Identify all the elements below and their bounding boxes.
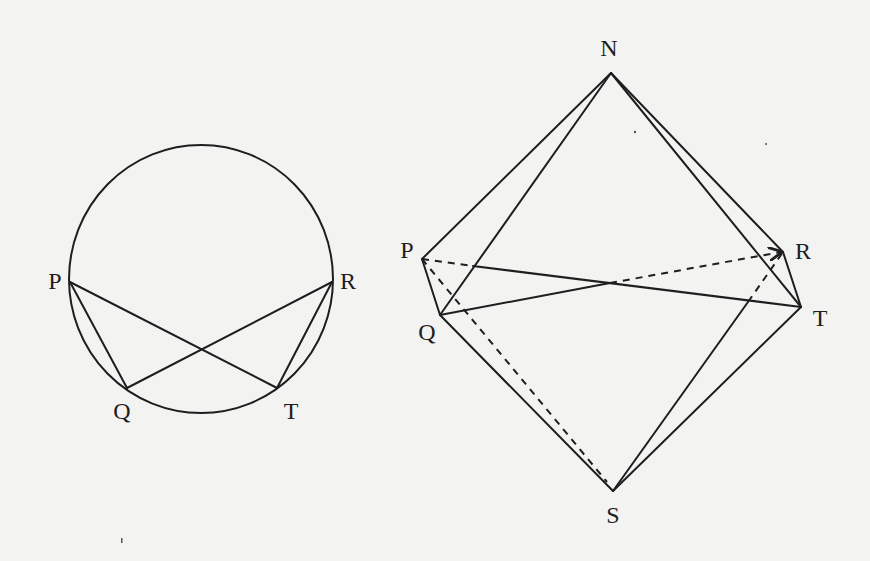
circle-label-r: R bbox=[340, 268, 356, 294]
solid-figure: N P Q R T S bbox=[400, 35, 827, 528]
chord-qr bbox=[127, 282, 332, 388]
print-speck bbox=[121, 538, 123, 543]
circle-label-q: Q bbox=[113, 398, 130, 424]
edge-pt-visible bbox=[473, 266, 801, 307]
circle-figure: P Q T R bbox=[48, 145, 356, 424]
solid-label-s: S bbox=[606, 502, 619, 528]
solid-label-r: R bbox=[795, 238, 811, 264]
diagram-page: P Q T R bbox=[0, 0, 870, 561]
edge-sr-visible bbox=[613, 302, 748, 491]
circle-label-p: P bbox=[48, 268, 61, 294]
edge-pt-hidden bbox=[422, 259, 473, 266]
solid-label-t: T bbox=[813, 305, 828, 331]
edge-ps bbox=[422, 259, 607, 482]
circle bbox=[69, 145, 333, 413]
chord-pq bbox=[70, 282, 127, 388]
print-speck bbox=[634, 131, 636, 133]
edge-pq bbox=[422, 259, 440, 315]
geometry-diagram: P Q T R bbox=[0, 0, 870, 561]
chord-rt bbox=[277, 282, 332, 388]
edge-qr-hidden bbox=[610, 252, 781, 283]
edge-nq bbox=[440, 73, 611, 315]
edge-ts bbox=[613, 307, 801, 491]
edge-qs bbox=[440, 315, 613, 491]
circle-label-t: T bbox=[284, 398, 299, 424]
solid-label-q: Q bbox=[418, 319, 435, 345]
edge-np bbox=[422, 73, 611, 259]
edge-nr bbox=[611, 73, 783, 252]
edge-nt bbox=[611, 73, 801, 307]
chord-pt bbox=[70, 282, 277, 388]
solid-label-n: N bbox=[600, 35, 617, 61]
solid-label-p: P bbox=[400, 237, 413, 263]
print-speck bbox=[765, 143, 767, 145]
